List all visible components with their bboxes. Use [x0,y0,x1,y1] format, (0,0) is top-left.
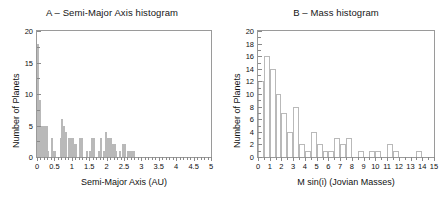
x-tick-minor [358,157,359,160]
x-tick-label: 10 [371,162,379,171]
x-tick-label: 3 [139,162,143,171]
x-tick-minor [44,157,45,160]
x-tick-minor [346,157,347,160]
x-tick-minor [208,157,209,160]
x-tick-major [364,157,365,161]
y-tick-minor [258,37,261,38]
x-tick-minor [82,157,83,160]
x-tick-label: 8 [350,162,354,171]
histogram-bar [75,144,77,157]
x-tick-label: 3 [291,162,295,171]
y-tick-label: 0 [240,153,254,162]
x-tick-major [305,157,306,161]
histogram-bar [93,138,95,157]
x-tick-minor [323,157,324,160]
x-tick-minor [75,157,76,160]
x-tick-minor [428,157,429,160]
x-tick-major [399,157,400,161]
x-tick-minor [131,157,132,160]
x-tick-minor [148,157,149,160]
x-tick-major [411,157,412,161]
y-tick-major [37,126,41,127]
x-tick-major [107,157,108,161]
x-tick-major [352,157,353,161]
x-tick-minor [162,157,163,160]
panel-a-ylabel: Number of Planets [11,73,21,148]
x-tick-major [317,157,318,161]
x-tick-label: 5 [209,162,213,171]
y-tick-label: 16 [240,52,254,61]
x-tick-minor [405,157,406,160]
y-tick-label: 20 [240,27,254,36]
x-tick-major [54,157,55,161]
y-tick-minor [258,113,261,114]
x-tick-label: 4 [174,162,178,171]
x-tick-minor [183,157,184,160]
x-tick-label: 7 [338,162,342,171]
x-tick-major [124,157,125,161]
x-tick-minor [166,157,167,160]
x-tick-label: 15 [430,162,438,171]
x-tick-minor [369,157,370,160]
y-tick-major [258,44,262,45]
x-tick-major [434,157,435,161]
x-tick-minor [180,157,181,160]
x-tick-minor [173,157,174,160]
y-tick-minor [37,78,40,79]
y-tick-label: 18 [240,39,254,48]
x-tick-label: 1 [70,162,74,171]
histogram-bar [65,132,67,157]
x-tick-minor [197,157,198,160]
x-tick-major [72,157,73,161]
x-tick-label: 11 [383,162,391,171]
x-tick-label: 13 [406,162,414,171]
figure-two-panel-histograms: A – Semi-Major Axis histogram 00.511.522… [0,0,448,209]
y-tick-minor [258,50,261,51]
x-tick-minor [201,157,202,160]
y-tick-minor [258,63,261,64]
x-tick-label: 4 [303,162,307,171]
y-tick-major [37,31,41,32]
x-tick-minor [58,157,59,160]
y-tick-minor [258,126,261,127]
y-tick-minor [258,138,261,139]
y-tick-minor [37,47,40,48]
x-tick-major [89,157,90,161]
x-tick-minor [299,157,300,160]
histogram-bar [81,138,83,157]
x-tick-minor [100,157,101,160]
x-tick-minor [127,157,128,160]
x-tick-minor [155,157,156,160]
x-tick-minor [311,157,312,160]
x-tick-minor [93,157,94,160]
x-tick-minor [47,157,48,160]
x-tick-major [270,157,271,161]
y-tick-minor [258,75,261,76]
y-tick-major [258,94,262,95]
x-tick-minor [381,157,382,160]
panel-b-bars [258,31,434,157]
x-tick-minor [68,157,69,160]
x-tick-minor [264,157,265,160]
x-tick-minor [187,157,188,160]
y-tick-label: 8 [240,102,254,111]
y-tick-label: 4 [240,127,254,136]
panel-a-bars [37,31,211,157]
x-tick-minor [334,157,335,160]
x-tick-minor [416,157,417,160]
y-tick-minor [37,141,40,142]
x-tick-label: 4.5 [188,162,198,171]
x-tick-major [159,157,160,161]
x-tick-label: 1.5 [84,162,94,171]
x-tick-major [176,157,177,161]
panel-b-plot-area [257,30,435,158]
x-tick-label: 0.5 [49,162,59,171]
x-tick-label: 14 [418,162,426,171]
y-tick-major [258,31,262,32]
y-tick-label: 20 [19,27,33,36]
histogram-bar [346,138,352,157]
y-tick-major [37,157,41,158]
x-tick-minor [79,157,80,160]
x-tick-label: 6 [326,162,330,171]
y-tick-major [258,56,262,57]
